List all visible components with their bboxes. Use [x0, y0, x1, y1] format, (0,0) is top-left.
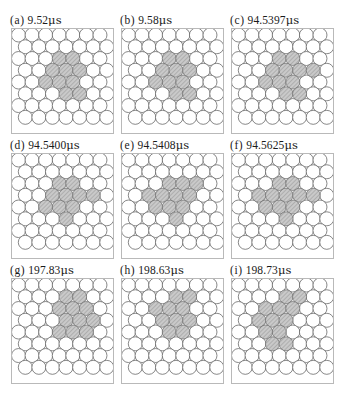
panel-letter-e: (e)	[120, 139, 135, 151]
particle	[238, 360, 252, 374]
particle	[306, 110, 320, 124]
particle	[293, 235, 307, 249]
panel-c: (c)94.5397μs	[228, 12, 338, 137]
panel-label-a: (a)9.52μs	[10, 12, 62, 28]
panel-letter-g: (g)	[10, 264, 25, 276]
panel-e: (e)94.5408μs	[118, 137, 228, 262]
particle-highlighted	[169, 212, 183, 226]
panel-label-c: (c)94.5397μs	[230, 12, 299, 28]
particle-highlighted	[293, 87, 307, 101]
particle-highlighted	[162, 325, 176, 339]
particle-highlighted	[279, 212, 293, 226]
particle	[100, 360, 113, 374]
panel-d: (d)94.5400μs	[8, 137, 118, 262]
particle	[210, 360, 223, 374]
panel-frame-e	[121, 153, 224, 259]
panel-label-f: (f)94.5625μs	[230, 137, 298, 153]
particle-highlighted	[59, 212, 73, 226]
lattice-h	[122, 279, 223, 383]
panel-frame-f	[231, 153, 334, 259]
particle	[320, 235, 333, 249]
particle	[196, 235, 210, 249]
panel-g: (g)197.83μs	[8, 262, 118, 387]
particle	[128, 360, 142, 374]
panel-time-b: 9.58	[138, 14, 159, 26]
particle	[142, 360, 156, 374]
lattice-d	[12, 154, 113, 258]
panel-letter-a: (a)	[10, 14, 25, 26]
particle	[142, 110, 156, 124]
panel-unit-b: μs	[159, 13, 173, 27]
particle-highlighted	[183, 87, 197, 101]
particle	[128, 235, 142, 249]
particle	[59, 360, 73, 374]
particle	[155, 235, 169, 249]
particle-highlighted	[259, 200, 273, 214]
panel-b: (b)9.58μs	[118, 12, 228, 137]
lattice-a	[12, 29, 113, 133]
particle	[183, 235, 197, 249]
particle	[169, 235, 183, 249]
particle-highlighted	[59, 87, 73, 101]
particle-highlighted	[306, 188, 320, 202]
panel-unit-e: μs	[176, 138, 190, 152]
panel-unit-c: μs	[286, 13, 300, 27]
panel-time-d: 94.5400	[28, 139, 66, 151]
particle	[265, 110, 279, 124]
particle	[73, 360, 87, 374]
panel-label-e: (e)94.5408μs	[120, 137, 189, 153]
particle	[183, 110, 197, 124]
particle	[18, 235, 32, 249]
particle	[320, 110, 333, 124]
particle	[32, 110, 46, 124]
figure-root: (a)9.52μs(b)9.58μs(c)94.5397μs(d)94.5400…	[0, 0, 343, 401]
particle	[265, 360, 279, 374]
particle	[155, 110, 169, 124]
panel-letter-c: (c)	[230, 14, 245, 26]
panel-frame-b	[121, 28, 224, 134]
panel-letter-h: (h)	[120, 264, 135, 276]
particle-highlighted	[306, 63, 320, 77]
particle	[32, 360, 46, 374]
particle	[293, 360, 307, 374]
panel-label-g: (g)197.83μs	[10, 262, 74, 278]
panel-label-h: (h)198.63μs	[120, 262, 184, 278]
panel-frame-g	[11, 278, 114, 384]
particle	[86, 360, 100, 374]
particle	[210, 235, 223, 249]
panel-label-d: (d)94.5400μs	[10, 137, 80, 153]
panel-letter-b: (b)	[120, 14, 135, 26]
lattice-b	[122, 29, 223, 133]
lattice-e	[122, 154, 223, 258]
particle	[45, 235, 59, 249]
particle	[45, 110, 59, 124]
particle-highlighted	[279, 87, 293, 101]
particle	[252, 235, 266, 249]
panel-letter-d: (d)	[10, 139, 25, 151]
particle-highlighted	[149, 200, 163, 214]
lattice-g	[12, 279, 113, 383]
particle	[100, 235, 113, 249]
particle	[306, 360, 320, 374]
panel-f: (f)94.5625μs	[228, 137, 338, 262]
panel-time-f: 94.5625	[246, 139, 284, 151]
particle	[86, 235, 100, 249]
particle-highlighted	[86, 188, 100, 202]
particle	[73, 110, 87, 124]
particle	[279, 110, 293, 124]
particle	[18, 110, 32, 124]
panel-time-c: 94.5397	[248, 14, 286, 26]
particle-highlighted	[265, 337, 279, 351]
particle	[279, 360, 293, 374]
particle-highlighted	[73, 87, 87, 101]
particle	[238, 235, 252, 249]
particle	[306, 235, 320, 249]
lattice-i	[232, 279, 333, 383]
particle-highlighted	[79, 325, 93, 339]
particle	[32, 235, 46, 249]
particle-highlighted	[259, 75, 273, 89]
panel-time-g: 197.83	[28, 264, 60, 276]
panel-unit-d: μs	[66, 138, 80, 152]
panel-unit-f: μs	[284, 138, 298, 152]
particle	[18, 360, 32, 374]
